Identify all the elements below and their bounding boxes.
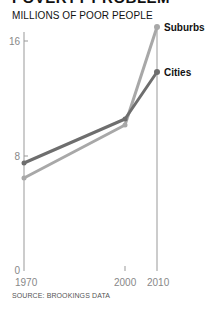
cities-point-2000 [123,117,128,122]
cities-point-1970 [22,161,27,166]
x-tick-label-1970: 1970 [15,277,38,288]
suburbs-point-2000 [123,123,128,128]
y-tick-label-8: 8 [14,151,20,162]
y-tick-label-16: 16 [9,36,21,47]
cities-label: Cities [164,67,192,78]
x-tick-label-2010: 2010 [147,277,170,288]
line-chart: 16 8 0 1970 2000 2010 Suburbs Cities [0,0,209,318]
x-tick-label-2000: 2000 [114,277,137,288]
suburbs-point-2010 [154,24,160,30]
suburbs-point-1970 [22,176,27,181]
y-tick-label-0: 0 [14,265,20,276]
source-note: SOURCE: BROOKINGS DATA [12,292,110,299]
suburbs-label: Suburbs [164,22,205,33]
cities-point-2010 [154,69,160,75]
